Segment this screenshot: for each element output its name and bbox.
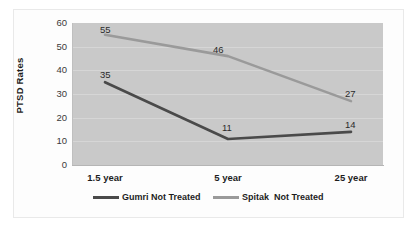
legend-label: Gumri Not Treated <box>122 192 201 202</box>
series-lines <box>73 23 383 165</box>
data-label-spitak-1: 55 <box>100 24 111 35</box>
data-label-gumri-3: 14 <box>345 119 356 130</box>
x-tick-label-1: 1.5 year <box>60 172 150 183</box>
y-tick-label: 60 <box>43 18 67 28</box>
chart-legend: Gumri Not Treated Spitak Not Treated <box>73 190 383 204</box>
x-axis-ticks: 1.5 year 5 year 25 year <box>73 172 383 186</box>
y-tick-label: 20 <box>43 113 67 123</box>
y-tick-label: 40 <box>43 65 67 75</box>
legend-swatch-icon <box>213 196 239 199</box>
y-axis-title: PTSD Rates <box>14 46 25 126</box>
chart-figure: PTSD Rates 60 50 40 30 20 10 0 55 46 27 … <box>0 0 418 228</box>
x-tick-label-2: 5 year <box>183 172 273 183</box>
legend-swatch-icon <box>93 196 119 199</box>
y-tick-label: 10 <box>43 136 67 146</box>
legend-item-spitak[interactable]: Spitak Not Treated <box>213 190 324 204</box>
y-tick-label: 30 <box>43 89 67 99</box>
x-tick-label-3: 25 year <box>306 172 396 183</box>
data-label-gumri-2: 11 <box>222 122 232 133</box>
series-line-spitak <box>105 35 351 101</box>
y-tick-label: 0 <box>43 160 67 170</box>
data-label-spitak-2: 46 <box>213 44 224 55</box>
y-tick-label: 50 <box>43 42 67 52</box>
x-axis-line <box>72 165 384 166</box>
data-label-gumri-1: 35 <box>100 69 111 80</box>
legend-label: Spitak Not Treated <box>242 192 324 202</box>
y-axis-ticks: 60 50 40 30 20 10 0 <box>41 23 67 165</box>
plot-area <box>73 23 383 165</box>
legend-item-gumri[interactable]: Gumri Not Treated <box>93 190 201 204</box>
data-label-spitak-3: 27 <box>345 88 356 99</box>
